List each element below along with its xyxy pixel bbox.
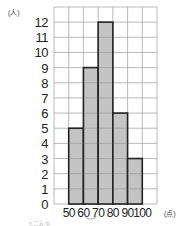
faint-note: ミ二ゐゆ bbox=[28, 219, 50, 226]
y-tick-label: 7 bbox=[24, 92, 48, 105]
x-tick-label: 100 bbox=[131, 207, 153, 219]
y-tick-label: 0 bbox=[24, 198, 48, 211]
y-tick-label: 9 bbox=[24, 62, 48, 75]
x-tick-label: 50 bbox=[62, 207, 76, 219]
y-tick-label: 5 bbox=[24, 122, 48, 135]
x-axis-unit: (点) bbox=[164, 208, 176, 218]
y-tick-label: 3 bbox=[24, 153, 48, 166]
histogram-bar-90-100 bbox=[128, 159, 143, 204]
x-tick-label: 80 bbox=[106, 207, 120, 219]
histogram-bar-50-60 bbox=[69, 128, 84, 204]
y-tick-label: 12 bbox=[24, 16, 48, 29]
y-axis-unit: (人) bbox=[8, 7, 20, 17]
histogram-bar-60-70 bbox=[83, 68, 98, 204]
y-tick-label: 4 bbox=[24, 137, 48, 150]
y-tick-label: 2 bbox=[24, 168, 48, 181]
y-tick-label: 11 bbox=[24, 31, 48, 44]
x-tick-label: 60 bbox=[76, 207, 90, 219]
y-tick-label: 10 bbox=[24, 46, 48, 59]
x-tick-label: 70 bbox=[91, 207, 105, 219]
y-tick-label: 6 bbox=[24, 107, 48, 120]
y-tick-label: 1 bbox=[24, 183, 48, 196]
y-tick-label: 8 bbox=[24, 77, 48, 90]
